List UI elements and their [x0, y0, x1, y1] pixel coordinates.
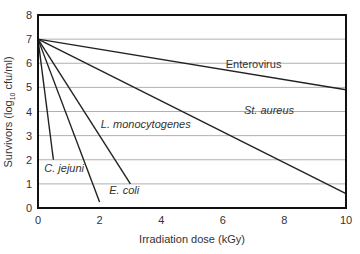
- y-tick-label: 6: [26, 57, 32, 69]
- series-label: C. jejuni: [44, 162, 84, 174]
- series-line: [38, 39, 346, 193]
- series-line: [38, 39, 346, 90]
- series-labels: EnterovirusSt. aureusL. monocytogenesE. …: [44, 58, 294, 195]
- series-label: St. aureus: [244, 104, 295, 116]
- x-tick-label: 2: [97, 214, 103, 226]
- series-label: L. monocytogenes: [101, 118, 191, 130]
- x-axis-ticks: 0246810: [35, 214, 352, 226]
- y-tick-label: 1: [26, 178, 32, 190]
- x-tick-label: 10: [340, 214, 352, 226]
- series-line: [38, 39, 53, 160]
- line-chart: 012345678 0246810 EnterovirusSt. aureusL…: [0, 0, 360, 254]
- x-tick-label: 4: [158, 214, 164, 226]
- x-tick-label: 8: [281, 214, 287, 226]
- y-tick-label: 4: [26, 106, 32, 118]
- series-label: Enterovirus: [226, 58, 282, 70]
- x-tick-label: 0: [35, 214, 41, 226]
- y-axis-ticks: 012345678: [26, 9, 32, 214]
- y-tick-label: 8: [26, 9, 32, 21]
- series-label: E. coli: [109, 184, 140, 196]
- y-tick-label: 3: [26, 130, 32, 142]
- x-tick-label: 6: [220, 214, 226, 226]
- y-tick-label: 0: [26, 202, 32, 214]
- y-tick-label: 2: [26, 154, 32, 166]
- y-tick-label: 5: [26, 81, 32, 93]
- x-axis-label: Irradiation dose (kGy): [139, 233, 245, 245]
- y-tick-label: 7: [26, 33, 32, 45]
- y-axis-label: Survivors (log10 cfu/ml): [2, 56, 16, 167]
